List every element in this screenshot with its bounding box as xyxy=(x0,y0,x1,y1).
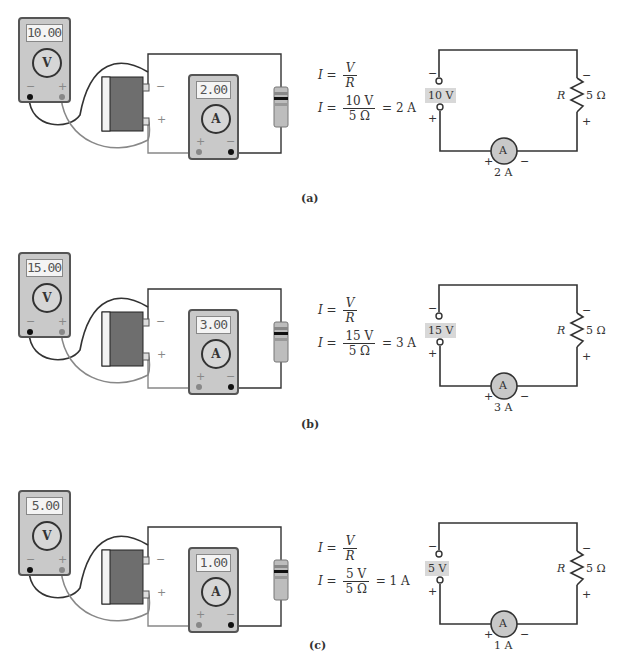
resistor-symbol-label: R xyxy=(557,562,565,575)
ammeter-display: 3.00 xyxy=(196,316,231,334)
voltmeter-pos-jack[interactable] xyxy=(59,329,65,335)
wiring xyxy=(0,0,628,210)
source-voltage-label: 15 V xyxy=(425,323,456,338)
panel-caption: (b) xyxy=(301,418,319,431)
source-neg-label: − xyxy=(428,302,437,315)
ammeter-pos-jack[interactable] xyxy=(196,622,202,628)
battery-neg-label: − xyxy=(156,80,165,93)
ammeter-neg-jack[interactable] xyxy=(228,384,234,390)
voltmeter-pos-label: + xyxy=(58,553,67,566)
source-pos-label: + xyxy=(428,585,437,598)
battery-pos-terminal xyxy=(143,591,149,598)
voltmeter-pos-jack[interactable] xyxy=(59,94,65,100)
resistor-pos-label: + xyxy=(582,350,591,363)
voltmeter-display: 5.00 xyxy=(26,497,63,515)
ammeter-neg-label: − xyxy=(226,135,235,148)
schematic-ammeter-label: A xyxy=(499,144,507,157)
resistor-neg-label: − xyxy=(582,542,591,555)
battery-pos-terminal xyxy=(143,353,149,360)
battery-cap xyxy=(102,550,110,604)
resistor-symbol-label: R xyxy=(557,89,565,102)
resistor-band-2 xyxy=(274,97,288,100)
ohms-law-equation: I = VR I = 5 V5 Ω = 1 A xyxy=(318,535,410,601)
ammeter-pos-label: + xyxy=(196,370,205,383)
resistor-band-3 xyxy=(274,103,288,106)
ammeter-neg-jack[interactable] xyxy=(228,622,234,628)
ammeter-display: 2.00 xyxy=(196,81,231,99)
voltmeter-display: 10.00 xyxy=(26,24,63,42)
voltmeter: 15.00 V − + xyxy=(18,252,71,338)
ammeter-pos-jack[interactable] xyxy=(196,149,202,155)
battery-cap xyxy=(102,77,110,131)
voltmeter-dial-icon: V xyxy=(32,283,62,313)
schematic-ammeter-pos-label: + xyxy=(484,155,493,168)
current-value-label: 3 A xyxy=(494,401,512,414)
source-pos-label: + xyxy=(428,347,437,360)
panel-caption: (a) xyxy=(301,192,319,205)
wiring xyxy=(0,235,628,445)
battery-neg-terminal xyxy=(143,319,149,326)
panel-caption: (c) xyxy=(309,639,326,652)
ammeter-neg-label: − xyxy=(226,608,235,621)
resistor-pos-label: + xyxy=(582,588,591,601)
resistor-symbol xyxy=(571,313,583,347)
ammeter-pos-jack[interactable] xyxy=(196,384,202,390)
circuit-wire-resistor-to-ammeter xyxy=(232,600,281,626)
voltmeter: 10.00 V − + xyxy=(18,17,71,103)
voltmeter-pos-label: + xyxy=(58,80,67,93)
resistor-band-3 xyxy=(274,338,288,341)
source-pos-terminal xyxy=(437,339,443,345)
ammeter-display: 1.00 xyxy=(196,554,231,572)
voltmeter-neg-jack[interactable] xyxy=(27,567,33,573)
current-value-label: 1 A xyxy=(494,639,512,652)
voltmeter-pos-label: + xyxy=(58,315,67,328)
fraction-v-over-r: VR xyxy=(343,62,356,89)
source-voltage-label: 5 V xyxy=(425,561,449,576)
ammeter-dial-icon: A xyxy=(201,339,231,369)
voltmeter-neg-label: − xyxy=(26,553,35,566)
battery-neg-label: − xyxy=(156,553,165,566)
fraction-values: 15 V5 Ω xyxy=(343,330,375,357)
ammeter-dial-icon: A xyxy=(201,104,231,134)
resistor-neg-label: − xyxy=(582,304,591,317)
schematic-ammeter-neg-label: − xyxy=(520,155,529,168)
battery-neg-terminal xyxy=(143,84,149,91)
resistor-band-2 xyxy=(274,332,288,335)
battery-pos-label: + xyxy=(157,113,166,126)
battery-pos-terminal xyxy=(143,118,149,125)
resistor-symbol-label: R xyxy=(557,324,565,337)
source-pos-terminal xyxy=(437,104,443,110)
resistor-band-3 xyxy=(274,576,288,579)
schematic-ammeter-pos-label: + xyxy=(484,628,493,641)
battery-pos-label: + xyxy=(157,348,166,361)
fraction-v-over-r: VR xyxy=(343,535,356,562)
resistor-value-label: 5 Ω xyxy=(586,324,606,337)
source-neg-label: − xyxy=(428,67,437,80)
equation-general: I = VR xyxy=(318,535,410,562)
resistor-band-1 xyxy=(274,327,288,330)
resistor-value-label: 5 Ω xyxy=(586,562,606,575)
fraction-v-over-r: VR xyxy=(343,297,356,324)
resistor-band-1 xyxy=(274,92,288,95)
voltmeter-neg-jack[interactable] xyxy=(27,94,33,100)
equation-general: I = VR xyxy=(318,62,416,89)
voltmeter-neg-jack[interactable] xyxy=(27,329,33,335)
resistor-neg-label: − xyxy=(582,69,591,82)
ammeter-neg-label: − xyxy=(226,370,235,383)
equation-substituted: I = 10 V5 Ω = 2 A xyxy=(318,95,416,122)
resistor-value-label: 5 Ω xyxy=(586,89,606,102)
ammeter-pos-label: + xyxy=(196,608,205,621)
circuit-wire-resistor-to-ammeter xyxy=(232,127,281,153)
voltmeter-pos-jack[interactable] xyxy=(59,567,65,573)
wiring xyxy=(0,473,628,655)
ammeter-dial-icon: A xyxy=(201,577,231,607)
source-pos-terminal xyxy=(437,577,443,583)
ohms-law-equation: I = VR I = 15 V5 Ω = 3 A xyxy=(318,297,416,363)
schematic-ammeter-pos-label: + xyxy=(484,390,493,403)
current-value-label: 2 A xyxy=(494,166,512,179)
voltmeter-neg-label: − xyxy=(26,315,35,328)
ammeter-neg-jack[interactable] xyxy=(228,149,234,155)
voltmeter-neg-label: − xyxy=(26,80,35,93)
equation-substituted: I = 15 V5 Ω = 3 A xyxy=(318,330,416,357)
equation-general: I = VR xyxy=(318,297,416,324)
